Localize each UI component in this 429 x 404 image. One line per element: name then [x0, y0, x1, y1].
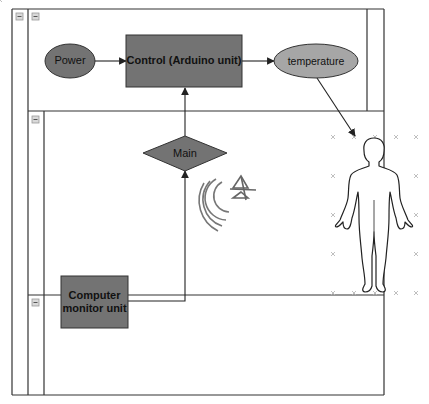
top-lane-collapse-button[interactable]: [32, 13, 39, 20]
control-label-text: Control (Arduino unit): [127, 54, 242, 67]
edge-temperature-human[interactable]: [317, 78, 355, 136]
edges: [95, 61, 355, 301]
temperature-label: temperature: [274, 44, 358, 78]
computer-monitor-label-line1: Computer: [69, 289, 121, 302]
main-label: Main: [143, 136, 227, 171]
pool-collapse-button[interactable]: [16, 13, 23, 20]
main-label-text: Main: [173, 147, 197, 160]
power-label-text: Power: [54, 54, 85, 67]
temperature-label-text: temperature: [288, 55, 345, 68]
power-label: Power: [45, 44, 95, 78]
edge-computer-main[interactable]: [128, 171, 185, 301]
human-body-icon[interactable]: [335, 138, 412, 292]
control-label: Control (Arduino unit): [126, 35, 242, 87]
computer-monitor-label-line2: monitor unit: [62, 302, 126, 315]
computer-monitor-label: Computer monitor unit: [61, 276, 128, 328]
wireless-signal-icon: [199, 176, 256, 231]
bottom-lane-collapse-button[interactable]: [32, 299, 39, 306]
middle-lane-collapse-button[interactable]: [32, 116, 39, 123]
